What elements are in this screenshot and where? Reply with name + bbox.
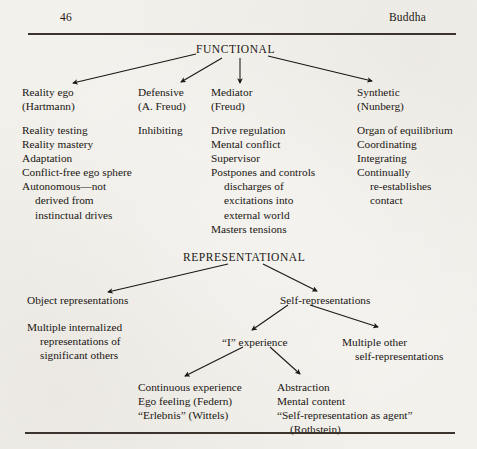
list-item-continuation: external world xyxy=(211,208,315,222)
node-functional: FUNCTIONAL xyxy=(196,44,275,56)
scanned-book-page: 46 Buddha FUNCTIONAL Real xyxy=(0,0,477,449)
list-item: Abstraction xyxy=(277,380,413,394)
list-synthetic: Organ of equilibrium Coordinating Integr… xyxy=(357,123,453,208)
list-mediator: Drive regulation Mental conflict Supervi… xyxy=(211,123,315,236)
column-mediator: Mediator (Freud) xyxy=(211,85,252,113)
list-item-continuation: representations of xyxy=(27,334,122,348)
list-item-continuation: excitations into xyxy=(211,193,315,207)
list-item: Coordinating xyxy=(357,137,453,151)
list-item: Reality mastery xyxy=(22,137,132,151)
list-item: Autonomous—not xyxy=(22,179,132,193)
column-heading-line: Defensive xyxy=(138,85,186,99)
node-representational: REPRESENTATIONAL xyxy=(183,252,305,264)
list-item-continuation: contact xyxy=(357,193,453,207)
list-item-continuation: significant others xyxy=(27,348,122,362)
list-item: Adaptation xyxy=(22,151,132,165)
list-item: Masters tensions xyxy=(211,222,315,236)
list-item: Mental content xyxy=(277,394,413,408)
list-item: Drive regulation xyxy=(211,123,315,137)
column-reality-ego: Reality ego (Hartmann) xyxy=(22,85,75,113)
list-item: Continually xyxy=(357,165,453,179)
horizontal-rule-top xyxy=(28,33,456,35)
list-continuous-experience: Continuous experience Ego feeling (Feder… xyxy=(138,380,242,422)
list-reality-ego: Reality testing Reality mastery Adaptati… xyxy=(22,123,132,222)
list-item: Inhibiting xyxy=(138,123,183,137)
list-multiple-other: Multiple other self-representations xyxy=(342,335,443,363)
list-item-continuation: (Rothstein) xyxy=(277,422,413,436)
list-item: Multiple other xyxy=(342,335,443,349)
column-heading-line: (A. Freud) xyxy=(138,99,186,113)
node-self-representations: Self-representations xyxy=(280,295,370,306)
node-i-experience: “I” experience xyxy=(222,337,288,348)
list-item-continuation: re-establishes xyxy=(357,179,453,193)
list-defensive: Inhibiting xyxy=(138,123,183,137)
list-item-continuation: discharges of xyxy=(211,179,315,193)
list-object-representations: Multiple internalized representations of… xyxy=(27,320,122,362)
column-heading-line: Mediator xyxy=(211,85,252,99)
list-item: Multiple internalized xyxy=(27,320,122,334)
column-heading-line: Reality ego xyxy=(22,85,75,99)
node-object-representations: Object representations xyxy=(27,295,128,306)
list-item: “Self-representation as agent” xyxy=(277,408,413,422)
list-item: Conflict-free ego sphere xyxy=(22,165,132,179)
column-heading-line: (Hartmann) xyxy=(22,99,75,113)
list-item: Continuous experience xyxy=(138,380,242,394)
list-item-continuation: instinctual drives xyxy=(22,208,132,222)
column-heading-line: Synthetic xyxy=(357,85,404,99)
page-number: 46 xyxy=(60,12,72,24)
column-synthetic: Synthetic (Nunberg) xyxy=(357,85,404,113)
list-item: Postpones and controls xyxy=(211,165,315,179)
list-item: Mental conflict xyxy=(211,137,315,151)
list-item: “Erlebnis” (Wittels) xyxy=(138,408,242,422)
list-item: Organ of equilibrium xyxy=(357,123,453,137)
column-heading-line: (Nunberg) xyxy=(357,99,404,113)
list-item: Ego feeling (Federn) xyxy=(138,394,242,408)
list-abstraction: Abstraction Mental content “Self-represe… xyxy=(277,380,413,436)
column-defensive: Defensive (A. Freud) xyxy=(138,85,186,113)
list-item: Supervisor xyxy=(211,151,315,165)
list-item: Reality testing xyxy=(22,123,132,137)
running-head: Buddha xyxy=(389,12,426,24)
horizontal-rule-bottom xyxy=(25,432,455,434)
list-item-continuation: self-representations xyxy=(342,349,443,363)
list-item-continuation: derived from xyxy=(22,193,132,207)
list-item: Integrating xyxy=(357,151,453,165)
column-heading-line: (Freud) xyxy=(211,99,252,113)
